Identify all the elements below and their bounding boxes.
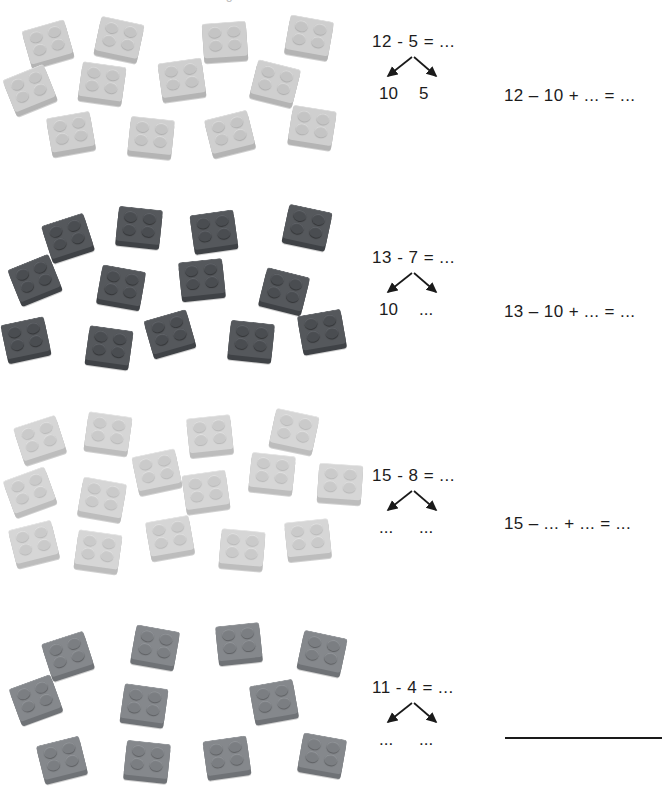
lego-brick: [281, 202, 335, 255]
lego-brick: [227, 318, 277, 367]
lego-brick: [143, 307, 199, 362]
lego-brick: [297, 730, 350, 781]
lego-brick: [73, 527, 125, 577]
number-bond-split-1: 10 5: [372, 54, 458, 106]
lego-brick: [12, 412, 69, 468]
answer-write-in-rule[interactable]: [505, 737, 662, 739]
equation-block-1: 12 - 5 = ... 10 5: [372, 32, 458, 106]
equation-block-2: 13 - 7 = ... 10 ...: [372, 248, 458, 322]
number-bond-split-3: ... ...: [372, 488, 458, 540]
lego-brick: [186, 412, 236, 461]
lego-brick: [83, 409, 135, 459]
lego-brick: [296, 628, 350, 681]
lego-brick: [215, 620, 265, 669]
lego-brick: [119, 681, 171, 731]
bond-leaf-right-4: ...: [419, 730, 433, 750]
lego-brick: [130, 622, 183, 673]
lego-brick: [248, 450, 298, 499]
lego-brick: [297, 306, 350, 357]
worksheet-page: Bricks subtraction worksheet — crossing …: [0, 0, 669, 799]
lego-brick: [257, 265, 312, 319]
bond-leaf-right-3: ...: [419, 518, 433, 538]
lego-brick: [96, 262, 149, 313]
bond-leaf-left-3: ...: [379, 518, 393, 538]
equation-right-3: 15 – ... + ... = ...: [504, 514, 631, 534]
bond-leaf-left-4: ...: [379, 730, 393, 750]
equation-right-1: 12 – 10 + ... = ...: [504, 86, 635, 106]
lego-brick: [115, 204, 165, 253]
lego-brick: [178, 256, 228, 305]
lego-brick: [284, 516, 334, 565]
bond-leaf-left-2: 10: [379, 300, 398, 320]
lego-brick: [131, 446, 185, 499]
lego-brick: [202, 733, 254, 783]
lego-brick: [0, 314, 54, 367]
lego-brick: [181, 467, 233, 517]
number-bond-split-4: ... ...: [372, 700, 458, 752]
lego-brick: [77, 474, 130, 525]
lego-brick: [317, 460, 366, 507]
lego-brick: [123, 738, 173, 787]
lego-brick: [145, 512, 198, 563]
equation-top-4: 11 - 4 = ...: [372, 678, 458, 698]
bond-leaf-right-1: 5: [419, 84, 428, 104]
equation-block-4: 11 - 4 = ... ... ...: [372, 678, 458, 752]
lego-brick: [2, 463, 60, 520]
equation-block-3: 15 - 8 = ... ... ...: [372, 466, 458, 540]
brick-group-4: [0, 0, 352, 190]
equation-top-3: 15 - 8 = ...: [372, 466, 458, 486]
equation-right-2: 13 – 10 + ... = ...: [504, 302, 635, 322]
lego-brick: [35, 733, 90, 787]
lego-brick: [84, 323, 136, 373]
equation-top-2: 13 - 7 = ...: [372, 248, 458, 268]
bond-leaf-right-2: ...: [419, 300, 433, 320]
number-bond-split-2: 10 ...: [372, 270, 458, 322]
bond-leaf-left-1: 10: [379, 84, 398, 104]
lego-brick: [218, 526, 268, 574]
equation-top-1: 12 - 5 = ...: [372, 32, 458, 52]
lego-brick: [189, 207, 241, 257]
lego-brick: [249, 676, 302, 727]
lego-brick: [268, 406, 322, 459]
lego-brick: [7, 517, 62, 571]
